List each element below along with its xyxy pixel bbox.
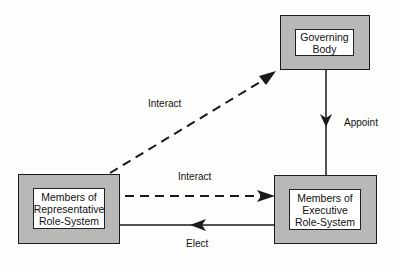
interact-diagonal-line bbox=[110, 76, 270, 173]
executive-label: Members of Executive Role-System bbox=[289, 189, 361, 230]
interact-horizontal-label: Interact bbox=[178, 171, 211, 182]
governing-body-label: Governing Body bbox=[295, 29, 354, 56]
representative-label: Members of Representative Role-System bbox=[33, 188, 105, 229]
appoint-label: Appoint bbox=[344, 117, 378, 128]
representative-node: Members of Representative Role-System bbox=[18, 174, 120, 244]
interact-diagonal-label: Interact bbox=[148, 98, 181, 109]
elect-label: Elect bbox=[186, 238, 208, 249]
arrowhead-icon bbox=[259, 71, 276, 85]
executive-node: Members of Executive Role-System bbox=[274, 175, 377, 244]
arrowhead-icon bbox=[257, 190, 275, 202]
governing-body-node: Governing Body bbox=[280, 15, 370, 70]
